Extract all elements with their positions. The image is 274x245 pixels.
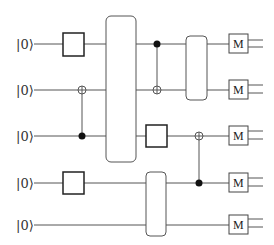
svg-text:M: M <box>233 218 244 232</box>
control-dot-icon <box>79 133 86 140</box>
quantum-circuit: |0⟩ |0⟩ |0⟩ |0⟩ |0⟩ M M M M <box>0 0 274 245</box>
multi-qubit-gate <box>146 172 166 236</box>
multi-qubit-gate <box>106 16 136 162</box>
svg-text:M: M <box>233 37 244 51</box>
svg-text:M: M <box>233 129 244 143</box>
control-dot-icon <box>196 180 203 187</box>
qubit-label: |0⟩ <box>16 129 34 144</box>
single-gate <box>146 125 167 147</box>
qubit-label: |0⟩ <box>16 37 34 52</box>
qubit-label: |0⟩ <box>16 218 34 233</box>
qubit-label: |0⟩ <box>16 176 34 191</box>
multi-qubit-gate <box>186 36 207 100</box>
svg-text:M: M <box>233 83 244 97</box>
single-gate <box>63 33 84 56</box>
single-gate <box>63 172 84 194</box>
svg-text:M: M <box>233 176 244 190</box>
measurement-gates: M M M M M <box>229 34 263 234</box>
control-dot-icon <box>154 41 161 48</box>
qubit-label: |0⟩ <box>16 83 34 98</box>
